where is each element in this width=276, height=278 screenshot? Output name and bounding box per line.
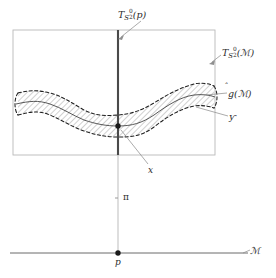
label-point-x: x <box>148 166 153 175</box>
label-section-curve-arg: (ℳ) <box>234 88 251 99</box>
diagram-svg <box>0 0 276 278</box>
point-x-dot <box>115 123 120 128</box>
label-section-curve-base: ĝ <box>228 88 234 99</box>
leader-band <box>196 107 228 116</box>
label-section-curve-letter: g <box>228 88 234 99</box>
leader-total-space-arrow <box>209 60 215 65</box>
figure-canvas: TS02(p) TS02(ℳ) ĝ(ℳ) ƴ x π p ℳ <box>0 0 276 278</box>
label-total-space: TS02(ℳ) <box>222 47 254 60</box>
label-band: ƴ <box>229 112 236 122</box>
point-p-dot <box>115 250 120 255</box>
leader-total-space <box>212 55 221 62</box>
label-point-p: p <box>115 258 121 267</box>
label-fiber-over-p: TS02(p) <box>118 9 146 22</box>
label-section-curve: ĝ(ℳ) <box>228 89 252 99</box>
label-projection: π <box>123 193 129 202</box>
label-total-space-arg: (ℳ) <box>237 47 254 58</box>
label-base-manifold: ℳ <box>250 246 260 256</box>
label-fiber-over-p-arg: (p) <box>133 9 147 20</box>
leader-fiber-over-p <box>121 21 141 37</box>
